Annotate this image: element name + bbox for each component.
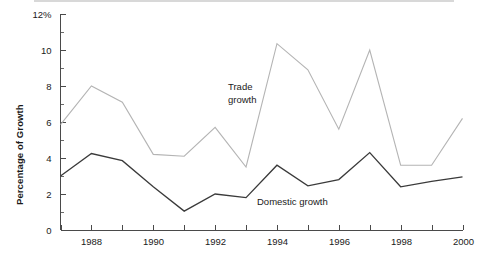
series-group bbox=[61, 44, 463, 211]
growth-line-chart: Percentage of Growth 024681012% 19881990… bbox=[0, 0, 490, 261]
y-tick-label-8: 8 bbox=[46, 81, 51, 92]
y-tick-label-0: 0 bbox=[46, 225, 51, 236]
y-axis-tick-labels: 024681012% bbox=[32, 9, 52, 236]
x-tick-label-1992: 1992 bbox=[205, 236, 226, 247]
x-axis-ticks bbox=[62, 225, 464, 230]
trade-growth-label-line1: Trade bbox=[228, 81, 252, 92]
x-tick-label-1988: 1988 bbox=[81, 236, 102, 247]
x-tick-label-1998: 1998 bbox=[391, 236, 412, 247]
y-tick-label-2: 2 bbox=[46, 189, 51, 200]
x-tick-label-1990: 1990 bbox=[143, 236, 164, 247]
trade-growth-label-line2: growth bbox=[228, 94, 257, 105]
x-axis-group: 1988199019921994199619982000 bbox=[61, 225, 475, 247]
y-tick-label-12: 12% bbox=[32, 9, 52, 20]
x-axis-tick-labels: 1988199019921994199619982000 bbox=[81, 236, 474, 247]
series-annotations: Trade growth Domestic growth bbox=[228, 81, 328, 207]
y-tick-label-10: 10 bbox=[41, 45, 52, 56]
x-tick-label-1994: 1994 bbox=[267, 236, 288, 247]
x-tick-label-1996: 1996 bbox=[329, 236, 350, 247]
y-axis-major-ticks bbox=[61, 15, 66, 231]
y-axis-group: 024681012% bbox=[32, 9, 65, 236]
y-tick-label-4: 4 bbox=[46, 153, 51, 164]
series-line-trade-growth bbox=[61, 44, 463, 167]
y-tick-label-6: 6 bbox=[46, 117, 51, 128]
chart-canvas: 024681012% 1988199019921994199619982000 … bbox=[0, 0, 490, 261]
domestic-growth-label: Domestic growth bbox=[257, 196, 328, 207]
x-tick-label-2000: 2000 bbox=[453, 236, 474, 247]
